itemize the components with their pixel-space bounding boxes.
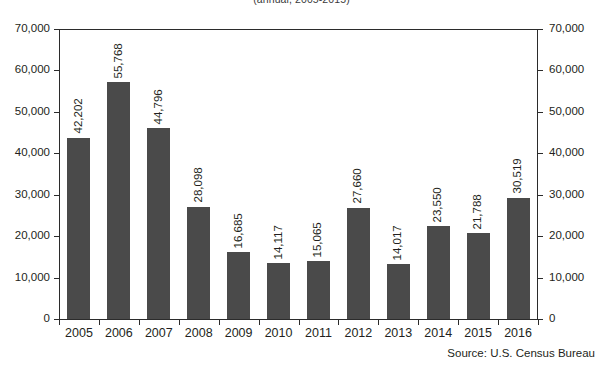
x-axis-label: 2014 bbox=[424, 327, 452, 340]
x-axis-label: 2011 bbox=[305, 327, 332, 340]
y-axis-tick-left bbox=[54, 153, 60, 154]
x-axis-tick bbox=[338, 319, 339, 325]
x-axis-label: 2013 bbox=[384, 327, 412, 340]
bar-value-wrapper: 15,065 bbox=[307, 239, 319, 274]
x-axis-tick bbox=[259, 319, 260, 325]
x-axis-tick bbox=[139, 319, 140, 325]
bar-value-wrapper: 16,685 bbox=[227, 231, 239, 266]
x-axis-label: 2006 bbox=[105, 327, 133, 340]
y-axis-tick-right bbox=[537, 236, 543, 237]
bar-value-label: 42,202 bbox=[73, 99, 85, 134]
y-axis-label-right: 70,000 bbox=[549, 23, 584, 35]
x-axis-tick bbox=[378, 319, 379, 325]
bar-value-label: 14,017 bbox=[393, 225, 405, 260]
y-axis-tick-left bbox=[54, 236, 60, 237]
chart-subtitle: (annual, 2005-2015) bbox=[0, 0, 603, 5]
bar: 27,660 bbox=[347, 208, 370, 319]
y-axis-label-left: 70,000 bbox=[15, 23, 50, 35]
y-axis-label-left: 50,000 bbox=[15, 106, 50, 118]
y-axis-tick-right bbox=[537, 70, 543, 71]
y-axis-tick-right bbox=[537, 29, 543, 30]
y-axis-tick-right bbox=[537, 195, 543, 196]
bar-value-wrapper: 55,768 bbox=[107, 60, 119, 95]
y-axis-label-right: 0 bbox=[549, 313, 555, 325]
y-axis-left-line bbox=[59, 29, 60, 319]
y-axis-tick-right bbox=[537, 278, 543, 279]
bar-chart: (annual, 2005-2015) 0010,00010,00020,000… bbox=[0, 0, 603, 367]
x-axis-label: 2016 bbox=[504, 327, 532, 340]
y-axis-label-left: 20,000 bbox=[15, 230, 50, 242]
bar: 42,202 bbox=[67, 138, 90, 319]
bar-value-wrapper: 42,202 bbox=[67, 116, 79, 151]
x-axis-tick bbox=[498, 319, 499, 325]
bar-value-wrapper: 21,788 bbox=[467, 212, 479, 247]
plot-top-border bbox=[59, 29, 538, 30]
bar-value-label: 23,550 bbox=[432, 187, 444, 222]
bar-value-label: 16,685 bbox=[233, 213, 245, 248]
bar: 23,550 bbox=[427, 226, 450, 319]
y-axis-label-left: 40,000 bbox=[15, 148, 50, 160]
bar-value-label: 21,788 bbox=[472, 194, 484, 229]
x-axis-label: 2009 bbox=[225, 327, 253, 340]
bar: 21,788 bbox=[467, 233, 490, 319]
bar: 55,768 bbox=[107, 82, 130, 319]
bar-value-wrapper: 14,117 bbox=[267, 242, 279, 276]
bar-value-label: 44,796 bbox=[153, 89, 165, 124]
x-axis-tick bbox=[418, 319, 419, 325]
bar-value-label: 30,519 bbox=[512, 158, 524, 193]
bar: 44,796 bbox=[147, 128, 170, 319]
bar-value-wrapper: 23,550 bbox=[427, 205, 439, 240]
y-axis-right-line bbox=[537, 29, 538, 319]
y-axis-tick-left bbox=[54, 29, 60, 30]
y-axis-tick-left bbox=[54, 278, 60, 279]
bar-value-label: 28,098 bbox=[193, 168, 205, 203]
y-axis-label-right: 20,000 bbox=[549, 230, 584, 242]
x-axis-tick bbox=[538, 319, 539, 325]
y-axis-tick-left bbox=[54, 195, 60, 196]
bar-value-wrapper: 44,796 bbox=[147, 107, 159, 142]
y-axis-label-left: 60,000 bbox=[15, 65, 50, 77]
y-axis-label-left: 30,000 bbox=[15, 189, 50, 201]
x-axis-tick bbox=[458, 319, 459, 325]
bar-value-wrapper: 27,660 bbox=[347, 186, 359, 221]
y-axis-label-right: 40,000 bbox=[549, 148, 584, 160]
x-axis-label: 2008 bbox=[185, 327, 213, 340]
x-axis-label: 2005 bbox=[65, 327, 93, 340]
bar-value-label: 14,117 bbox=[273, 225, 285, 259]
x-axis-tick bbox=[179, 319, 180, 325]
bar-value-label: 27,660 bbox=[353, 169, 365, 204]
x-axis-tick bbox=[219, 319, 220, 325]
y-axis-tick-right bbox=[537, 112, 543, 113]
x-axis-label: 2010 bbox=[265, 327, 293, 340]
bar-value-label: 55,768 bbox=[113, 43, 125, 78]
bar: 16,685 bbox=[227, 252, 250, 319]
x-axis-tick bbox=[299, 319, 300, 325]
y-axis-tick-left bbox=[54, 112, 60, 113]
bar: 15,065 bbox=[307, 261, 330, 319]
bar: 30,519 bbox=[507, 198, 530, 319]
y-axis-label-right: 30,000 bbox=[549, 189, 584, 201]
y-axis-label-left: 0 bbox=[44, 313, 50, 325]
y-axis-label-right: 50,000 bbox=[549, 106, 584, 118]
bar: 14,017 bbox=[387, 264, 410, 319]
bar-value-wrapper: 30,519 bbox=[507, 176, 519, 211]
source-note: Source: U.S. Census Bureau bbox=[447, 347, 595, 359]
bar: 28,098 bbox=[187, 207, 210, 319]
y-axis-label-right: 10,000 bbox=[549, 272, 584, 284]
x-axis-tick bbox=[59, 319, 60, 325]
x-axis-tick bbox=[99, 319, 100, 325]
bar-value-wrapper: 28,098 bbox=[187, 185, 199, 220]
x-axis-label: 2015 bbox=[464, 327, 492, 340]
y-axis-label-left: 10,000 bbox=[15, 272, 50, 284]
y-axis-tick-left bbox=[54, 70, 60, 71]
x-axis-label: 2007 bbox=[145, 327, 173, 340]
y-axis-label-right: 60,000 bbox=[549, 65, 584, 77]
x-axis-label: 2012 bbox=[344, 327, 372, 340]
bar: 14,117 bbox=[267, 263, 290, 319]
bar-value-label: 15,065 bbox=[313, 222, 325, 257]
bar-value-wrapper: 14,017 bbox=[387, 243, 399, 278]
y-axis-tick-right bbox=[537, 153, 543, 154]
plot-area: 0010,00010,00020,00020,00030,00030,00040… bbox=[59, 29, 538, 319]
